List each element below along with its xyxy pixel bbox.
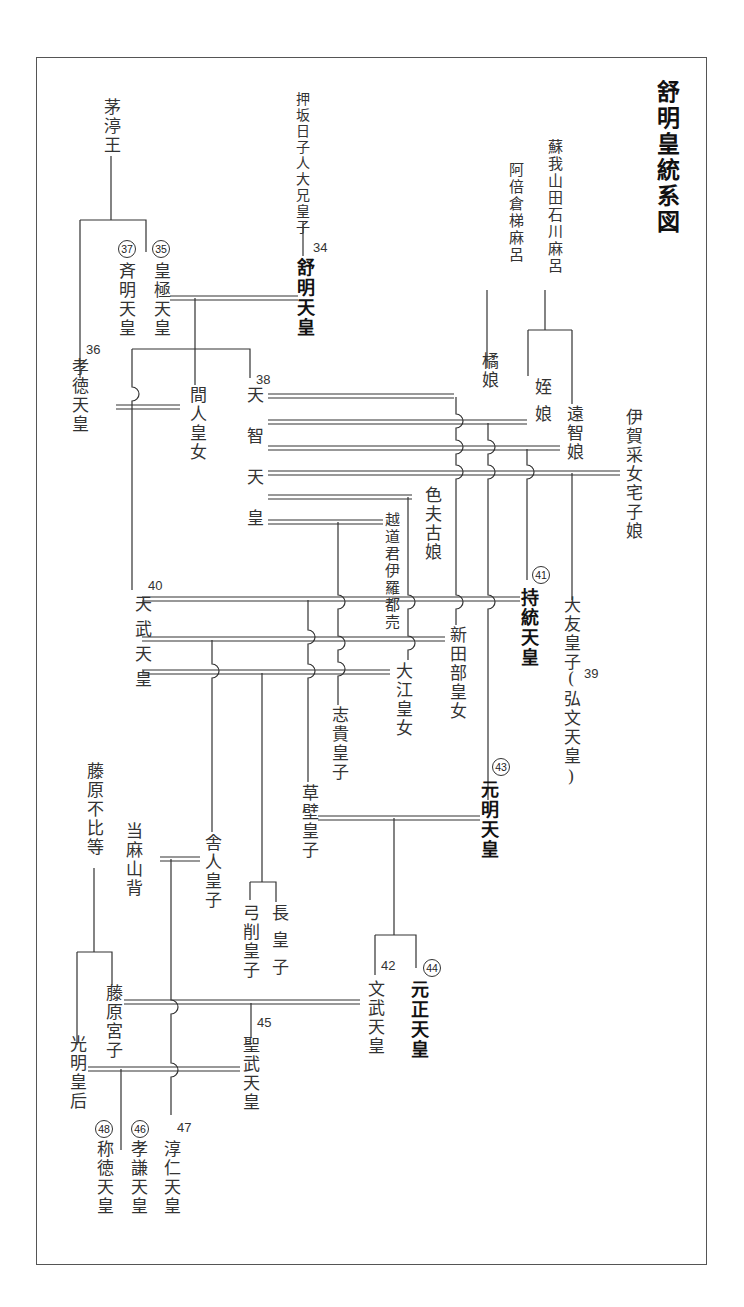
person-kusakabe: 草壁皇子 — [300, 784, 318, 860]
reign-number-tenji: 38 — [256, 372, 270, 387]
person-shotoku: 称徳天皇 — [95, 1140, 113, 1216]
person-komyo: 光明皇后 — [68, 1035, 86, 1111]
person-oshisaka: 押坂日子人大兄皇子 — [294, 92, 309, 236]
person-oe: 大江皇女 — [394, 662, 412, 738]
person-yuge: 弓削皇子 — [241, 904, 259, 980]
reign-number-monmu: 42 — [381, 958, 395, 973]
person-jomei: 舒明天皇 — [295, 258, 313, 338]
person-shomu: 聖武天皇 — [241, 1036, 259, 1112]
person-shiki: 志貴皇子 — [330, 706, 348, 782]
reign-number-gensho: 44 — [423, 959, 441, 977]
person-hashihito: 間人皇女 — [188, 386, 206, 462]
person-otomo: 大友皇子 — [562, 596, 580, 672]
person-tenji: 天智天皇 — [245, 386, 263, 550]
person-kobun: (弘文天皇) — [562, 668, 580, 788]
person-shikobu: 色夫古娘 — [423, 486, 441, 562]
person-koken: 孝謙天皇 — [129, 1140, 147, 1216]
reign-number-genmei: 43 — [492, 758, 510, 776]
person-ochi: 遠智娘 — [565, 405, 583, 462]
diagram-title: 舒明皇統系図 — [650, 80, 684, 236]
person-saimei: 斉明天皇 — [117, 262, 135, 338]
person-iga: 伊賀采女宅子娘 — [624, 408, 642, 541]
reign-number-kotoku: 36 — [86, 342, 100, 357]
person-kogyoku: 皇極天皇 — [152, 262, 170, 338]
person-kotoku: 孝徳天皇 — [70, 358, 88, 434]
reign-number-junnin: 47 — [177, 1120, 191, 1135]
person-tenmu: 天武天皇 — [133, 595, 151, 695]
person-fuhito: 藤原不比等 — [85, 762, 103, 857]
person-naga: 長皇子 — [270, 904, 288, 985]
person-jito: 持統天皇 — [519, 588, 537, 668]
reign-number-saimei: 37 — [118, 240, 136, 258]
reign-number-koken: 46 — [131, 1120, 149, 1138]
person-taima: 当麻山背 — [124, 822, 142, 898]
reign-number-shomu: 45 — [257, 1015, 271, 1030]
person-genmei: 元明天皇 — [479, 780, 497, 860]
genealogy-lines — [0, 0, 744, 1307]
person-gensho: 元正天皇 — [409, 980, 427, 1060]
reign-number-jomei: 34 — [313, 240, 327, 255]
reign-number-shotoku: 48 — [95, 1120, 113, 1138]
reign-number-jito: 41 — [532, 566, 550, 584]
reign-number-kobun: 39 — [584, 666, 598, 681]
person-niitabe: 新田部皇女 — [448, 626, 466, 721]
person-toneri: 舎人皇子 — [203, 834, 221, 910]
person-miyako: 藤原宮子 — [104, 984, 122, 1060]
reign-number-kogyoku: 35 — [152, 240, 170, 258]
person-abe: 阿倍倉梯麻呂 — [507, 162, 523, 264]
reign-number-tenmu: 40 — [148, 578, 162, 593]
person-junnin: 淳仁天皇 — [162, 1140, 180, 1216]
person-tachibana: 橘娘 — [480, 352, 498, 390]
person-koshi: 越道君伊羅都売 — [359, 512, 399, 580]
person-monmu: 文武天皇 — [366, 980, 384, 1056]
person-soga: 蘇我山田石川麻呂 — [546, 139, 562, 275]
person-chinu: 茅渟王 — [102, 98, 120, 155]
person-mei: 姪娘 — [533, 378, 551, 432]
